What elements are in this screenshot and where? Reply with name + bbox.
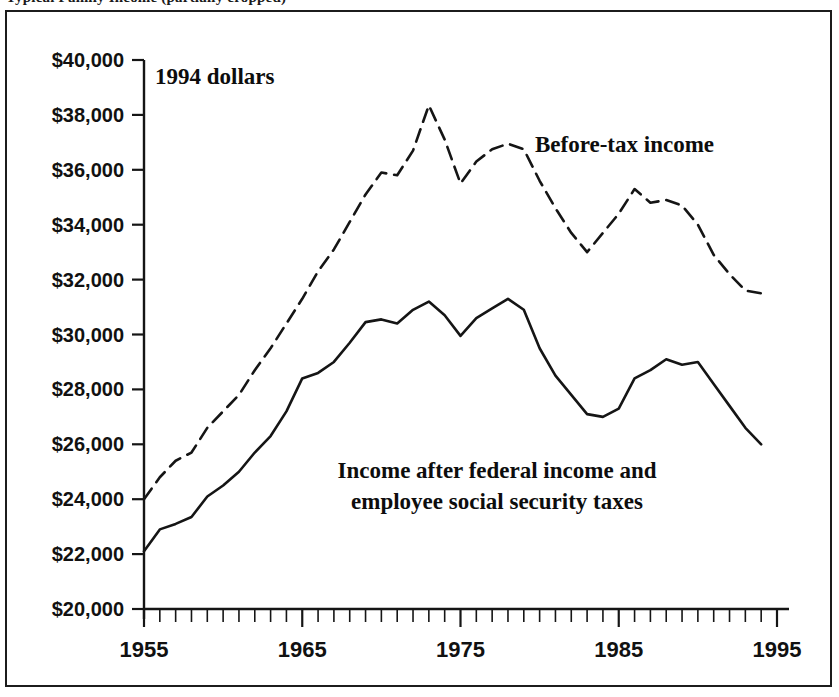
data-series-group [144,105,761,551]
x-tick-label: 1985 [594,637,643,662]
after-tax-series-label-line1: Income after federal income and [338,458,657,483]
y-tick-label: $26,000 [52,433,124,455]
y-tick-label: $40,000 [52,49,124,71]
y-tick-label: $22,000 [52,543,124,565]
y-tick-label: $20,000 [52,598,124,620]
y-tick-label: $34,000 [52,214,124,236]
x-tick-label: 1965 [278,637,327,662]
y-tick-label: $38,000 [52,104,124,126]
before-tax-series-label: Before-tax income [535,132,714,157]
figure-title-cropped: Typical Family Income (partially cropped… [6,0,436,5]
x-axis: 19551965197519851995 [120,609,802,662]
chart-frame: $40,000$38,000$36,000$34,000$32,000$30,0… [5,10,832,687]
after-tax-series-label-line2: employee social security taxes [351,489,643,514]
income-line-chart: $40,000$38,000$36,000$34,000$32,000$30,0… [7,12,830,685]
y-tick-label: $30,000 [52,324,124,346]
y-tick-label: $28,000 [52,378,124,400]
units-annotation: 1994 dollars [155,64,275,89]
y-tick-label: $24,000 [52,488,124,510]
x-tick-label: 1995 [753,637,802,662]
x-tick-label: 1955 [120,637,169,662]
y-tick-label: $36,000 [52,159,124,181]
y-tick-label: $32,000 [52,269,124,291]
x-tick-label: 1975 [436,637,485,662]
series-path-before-tax [144,105,761,499]
y-axis: $40,000$38,000$36,000$34,000$32,000$30,0… [52,49,144,620]
